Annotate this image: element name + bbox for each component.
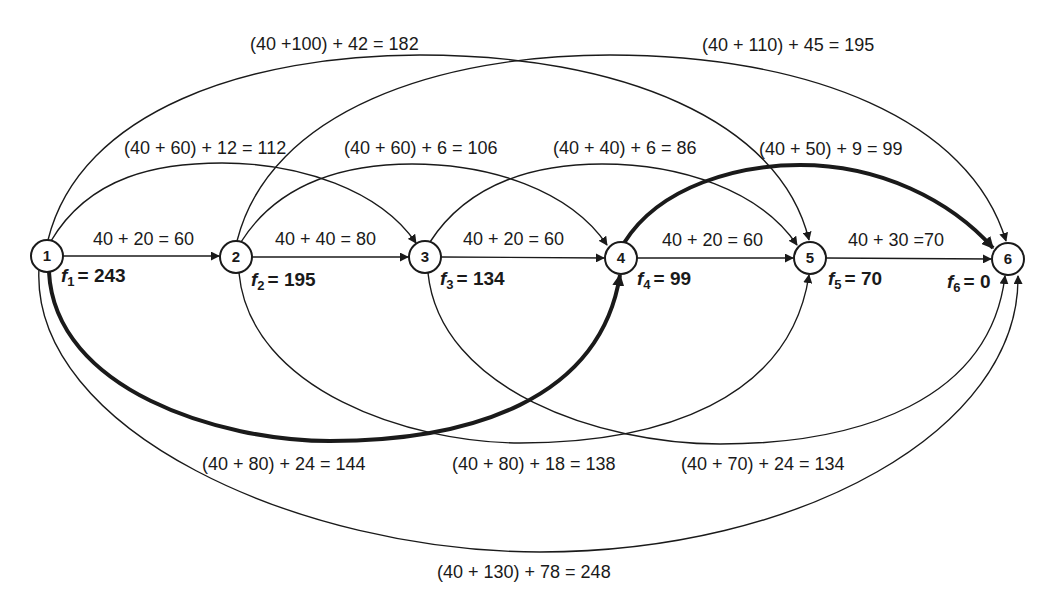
edge-3-6 — [428, 273, 1005, 444]
edge-label-2-5: (40 + 80) + 18 = 138 — [452, 454, 616, 474]
svg-text:3: 3 — [421, 248, 429, 265]
f-value-1: f1= 243 — [61, 265, 126, 289]
edge-label-3-5: (40 + 40) + 6 = 86 — [553, 138, 697, 158]
edge-3-4 — [441, 257, 604, 258]
svg-text:6: 6 — [1004, 250, 1012, 267]
f-value-6: f6= 0 — [947, 271, 991, 295]
edge-label-2-3: 40 + 40 = 80 — [275, 229, 376, 249]
edge-label-1-2: 40 + 20 = 60 — [93, 229, 194, 249]
edge-label-4-6: (40 + 50) + 9 = 99 — [759, 139, 903, 159]
f-value-2: f2= 195 — [251, 269, 316, 293]
edge-1-6 — [39, 268, 1018, 552]
network-diagram: 40 + 20 = 60 40 + 40 = 80 40 + 20 = 60 4… — [0, 0, 1053, 600]
node-1: 1 — [31, 240, 63, 272]
edge-label-5-6: 40 + 30 =70 — [848, 230, 944, 250]
edge-label-2-4: (40 + 60) + 6 = 106 — [344, 138, 498, 158]
svg-text:1: 1 — [43, 247, 51, 264]
svg-text:5: 5 — [806, 249, 814, 266]
edge-label-1-3: (40 + 60) + 12 = 112 — [124, 138, 286, 158]
node-3: 3 — [409, 241, 441, 273]
f-value-4: f4= 99 — [637, 268, 691, 292]
edge-label-4-5: 40 + 20 = 60 — [662, 230, 763, 250]
node-4: 4 — [605, 242, 637, 274]
svg-text:2: 2 — [232, 248, 240, 265]
node-6: 6 — [992, 243, 1024, 275]
edge-1-4-optimal — [49, 272, 620, 441]
edge-2-5 — [239, 273, 809, 443]
edge-label-1-5: (40 +100) + 42 = 182 — [250, 34, 419, 54]
edge-label-1-6: (40 + 130) + 78 = 248 — [437, 562, 611, 582]
node-2: 2 — [220, 241, 252, 273]
edge-5-6 — [826, 258, 991, 259]
edge-label-2-6: (40 + 110) + 45 = 195 — [702, 35, 874, 55]
svg-text:4: 4 — [617, 249, 626, 266]
f-value-5: f5= 70 — [828, 268, 882, 292]
node-5: 5 — [794, 242, 826, 274]
edge-label-3-6: (40 + 70) + 24 = 134 — [681, 454, 845, 474]
edge-label-3-4: 40 + 20 = 60 — [463, 229, 564, 249]
f-value-3: f3= 134 — [440, 268, 505, 292]
edge-label-1-4: (40 + 80) + 24 = 144 — [202, 454, 366, 474]
